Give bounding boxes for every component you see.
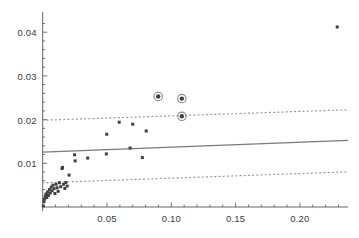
data-point <box>86 157 89 160</box>
data-point <box>105 152 108 155</box>
data-point <box>145 129 148 132</box>
series-points <box>42 25 339 207</box>
data-point <box>105 133 108 136</box>
data-point <box>61 166 64 169</box>
data-point <box>129 147 132 150</box>
data-point-highlighted <box>180 96 184 100</box>
data-point <box>131 123 134 126</box>
data-point <box>118 121 121 124</box>
x-tick-label: 0.20 <box>290 213 309 224</box>
y-tick-label: 0.04 <box>17 27 36 38</box>
data-point <box>336 25 339 28</box>
x-tick-label: 0.15 <box>226 213 245 224</box>
data-point-highlighted <box>180 114 184 118</box>
data-point-highlighted <box>156 94 160 98</box>
data-point <box>53 187 56 190</box>
x-tick-label: 0.10 <box>162 213 181 224</box>
y-tick-label: 0.02 <box>17 114 36 125</box>
lower-confidence-band <box>43 172 348 183</box>
y-tick-label: 0.01 <box>17 158 36 169</box>
data-point <box>68 174 71 177</box>
scatter-plot-figure: 0.050.100.150.200.010.020.030.04 <box>0 0 359 238</box>
data-point <box>64 181 67 184</box>
plot-canvas <box>0 0 359 238</box>
fit-line <box>43 140 348 152</box>
data-point <box>66 185 69 188</box>
data-point <box>59 185 62 188</box>
data-point <box>51 184 54 187</box>
data-point <box>55 183 58 186</box>
y-tick-label: 0.03 <box>17 70 36 81</box>
data-point <box>42 204 45 207</box>
data-point <box>42 200 45 203</box>
data-point <box>58 181 61 184</box>
data-point <box>74 159 77 162</box>
x-tick-label: 0.05 <box>97 213 116 224</box>
data-point <box>53 192 56 195</box>
data-point <box>56 186 59 189</box>
data-point <box>141 156 144 159</box>
data-point <box>73 153 76 156</box>
data-point <box>57 190 60 193</box>
upper-confidence-band <box>43 110 348 120</box>
